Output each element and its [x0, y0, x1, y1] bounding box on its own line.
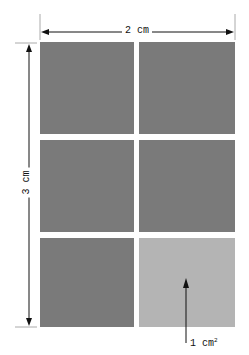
arrow-down-icon	[26, 318, 32, 326]
arrow-right-icon	[226, 29, 234, 35]
width-label: 2 cm	[122, 25, 152, 36]
unit-superscript: 2	[214, 337, 218, 344]
unit-label: 1 cm2	[190, 337, 218, 349]
unit-label-text: 1 cm	[190, 338, 214, 349]
height-label: 3 cm	[21, 167, 32, 197]
arrow-left-icon	[41, 29, 49, 35]
pointer-arrow-icon	[183, 278, 189, 288]
dimension-lines	[0, 0, 249, 355]
arrow-up-icon	[26, 44, 32, 52]
